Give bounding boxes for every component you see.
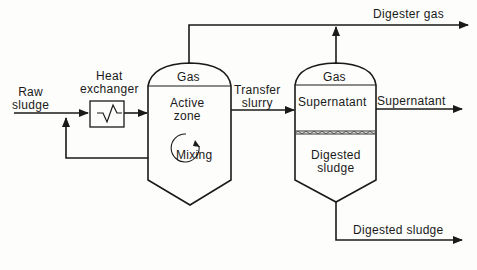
active-tank-gas-label: Gas — [177, 71, 200, 84]
heat-exchanger-label: Heat exchanger — [80, 70, 139, 96]
recirculation-line — [66, 118, 148, 158]
mixing-label: Mixing — [176, 149, 212, 162]
digester-gas-line — [189, 25, 468, 63]
tank-supernatant-label: Supernatant — [298, 96, 367, 109]
digested-sludge-output-label: Digested sludge — [353, 224, 444, 237]
slurry-label: slurry — [234, 97, 281, 110]
heat-exchanger-coil-icon — [97, 105, 122, 122]
zone-label: zone — [170, 110, 204, 123]
digester-diagram: Raw sludge Heat exchanger Gas Active zon… — [0, 0, 477, 270]
raw-sludge-label: Raw sludge — [12, 86, 49, 112]
exchanger-label: exchanger — [80, 83, 139, 96]
transfer-slurry-label: Transfer slurry — [234, 84, 281, 110]
digester-gas-label: Digester gas — [373, 8, 444, 21]
digested-sludge-tank-label: Digested sludge — [311, 149, 361, 175]
sludge-label: sludge — [12, 99, 49, 112]
storage-tank-gas-label: Gas — [323, 71, 346, 84]
supernatant-output-label: Supernatant — [377, 95, 446, 108]
active-tank-outline — [148, 63, 231, 205]
active-zone-label: Active zone — [170, 97, 204, 123]
sludge-tank-label: sludge — [311, 162, 361, 175]
